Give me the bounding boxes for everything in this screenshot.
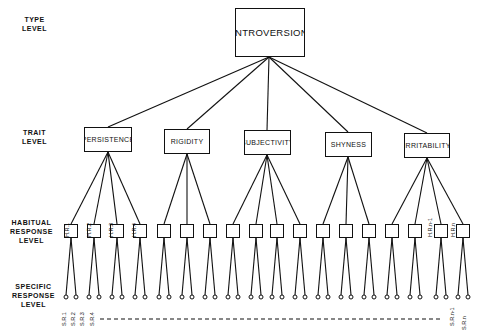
- trait-node-subjectivity: SUBJECTIVITY: [244, 130, 291, 155]
- sr-label-text: S.R.3: [79, 312, 85, 326]
- hr-label-text: H.R.3: [108, 223, 114, 237]
- sr-label-text: S.R.n-1: [449, 307, 455, 326]
- habitual-response-box: [157, 224, 171, 238]
- habitual-level-text: HABITUAL RESPONSE LEVEL: [10, 219, 53, 244]
- sr-label-text: S.R.n: [461, 316, 467, 330]
- specific-level-label: SPECIFIC RESPONSE LEVEL: [12, 282, 55, 309]
- sr-label-n-1: S.R.n-1: [449, 307, 455, 326]
- hr-label-text: H.R.n-1: [427, 218, 433, 237]
- type-node-introversion: INTROVERSION: [235, 8, 305, 57]
- habitual-level-label: HABITUAL RESPONSE LEVEL: [10, 218, 53, 245]
- hr-label-text: H.R.2: [86, 223, 92, 237]
- trait-node-shyness: SHYNESS: [325, 132, 372, 157]
- habitual-response-box: [249, 224, 263, 238]
- type-level-text: TYPE LEVEL: [22, 16, 47, 32]
- habitual-response-box: [434, 224, 448, 238]
- sr-label-1: S.R.1: [61, 312, 67, 326]
- sr-label-n: S.R.n: [461, 316, 467, 330]
- trait-level-text: TRAIT LEVEL: [22, 129, 47, 145]
- trait-node-rigidity: RIGIDITY: [164, 129, 210, 154]
- specific-level-text: SPECIFIC RESPONSE LEVEL: [12, 283, 55, 308]
- trait-level-label: TRAIT LEVEL: [22, 128, 47, 146]
- habitual-response-box: [456, 224, 470, 238]
- hr-label-3: H.R.3: [108, 223, 114, 237]
- hr-label-1: H.R.1: [64, 223, 70, 237]
- trait-label: RIGIDITY: [171, 138, 204, 145]
- sr-label-text: S.R.4: [89, 312, 95, 326]
- habitual-response-box: [316, 224, 330, 238]
- hr-label-2: H.R.2: [86, 223, 92, 237]
- habitual-response-box: [180, 224, 194, 238]
- sr-label-text: S.R.2: [70, 312, 76, 326]
- type-node-label: INTROVERSION: [235, 27, 305, 38]
- trait-label: PERSISTENCE: [84, 136, 132, 143]
- hr-label-n-1: H.R.n-1: [427, 218, 433, 237]
- hr-label-4: H.R.4: [131, 223, 137, 237]
- trait-label: SHYNESS: [331, 141, 367, 148]
- hr-label-text: H.R.n: [450, 223, 456, 237]
- habitual-response-box: [362, 224, 376, 238]
- habitual-response-box: [226, 224, 240, 238]
- sr-label-text: S.R.1: [61, 312, 67, 326]
- trait-label: SUBJECTIVITY: [244, 139, 291, 146]
- habitual-response-box: [203, 224, 217, 238]
- hierarchy-diagram: TYPE LEVEL TRAIT LEVEL HABITUAL RESPONSE…: [0, 0, 477, 333]
- trait-node-irritability: IRRITABILITY: [404, 133, 450, 158]
- sr-label-3: S.R.3: [79, 312, 85, 326]
- trait-label: IRRITABILITY: [404, 142, 450, 149]
- habitual-response-box: [408, 224, 422, 238]
- hr-label-text: H.R.4: [131, 223, 137, 237]
- habitual-response-box: [270, 224, 284, 238]
- habitual-response-box: [385, 224, 399, 238]
- hr-label-n: H.R.n: [450, 223, 456, 237]
- sr-label-4: S.R.4: [89, 312, 95, 326]
- habitual-response-box: [339, 224, 353, 238]
- trait-node-persistence: PERSISTENCE: [84, 127, 132, 152]
- hr-label-text: H.R.1: [64, 223, 70, 237]
- habitual-response-box: [293, 224, 307, 238]
- sr-label-2: S.R.2: [70, 312, 76, 326]
- type-level-label: TYPE LEVEL: [22, 15, 47, 33]
